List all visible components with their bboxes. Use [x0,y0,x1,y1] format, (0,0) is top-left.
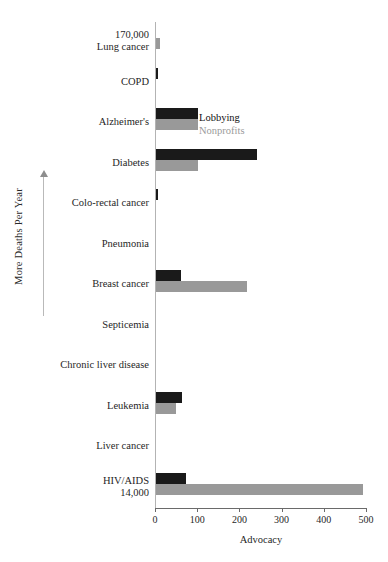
x-axis-tick [239,508,240,512]
x-axis-tick-label: 200 [219,514,259,525]
category-label: Leukemia [1,400,149,412]
x-axis-tick-label: 100 [177,514,217,525]
category-name: Pneumonia [102,238,149,249]
category-label: Alzheimer's [1,116,149,128]
category-label: Breast cancer [1,278,149,290]
category-label: HIV/AIDS14,000 [1,475,149,499]
x-axis-tick-label: 400 [304,514,344,525]
bar-nonprofits [156,119,198,130]
x-axis-tick [324,508,325,512]
bar-lobbying [156,189,158,200]
bar-nonprofits [156,484,363,495]
category-name: Septicemia [102,319,149,330]
bar-rows: 170,000Lung cancerCOPDAlzheimer'sDiabete… [0,22,388,508]
category-name: HIV/AIDS [103,475,149,486]
category-label: 170,000Lung cancer [1,29,149,53]
bar-row: Septicemia [0,306,388,343]
bar-row: Liver cancer [0,427,388,464]
bar-row: Pneumonia [0,225,388,262]
category-name: Alzheimer's [99,116,149,127]
bar-row: Leukemia [0,387,388,424]
bar-nonprofits [156,160,198,171]
x-axis-tick-label: 500 [346,514,386,525]
category-name: Leukemia [107,400,149,411]
legend-label-nonprofits: Nonprofits [199,125,245,136]
death-count-annotation: 14,000 [1,487,149,499]
x-axis-tick-label: 300 [262,514,302,525]
x-axis-tick-label: 0 [135,514,175,525]
advocacy-bar-chart: More Deaths Per Year 170,000Lung cancerC… [0,0,388,562]
legend-item-lobbying: Lobbying [199,111,245,124]
x-axis-tick [155,508,156,512]
bar-row: COPD [0,63,388,100]
bar-lobbying [156,392,182,403]
bar-lobbying [156,149,257,160]
bar-lobbying [156,270,181,281]
category-name: Diabetes [112,157,149,168]
bar-row: 170,000Lung cancer [0,22,388,59]
bar-row: Breast cancer [0,265,388,302]
category-name: COPD [121,76,149,87]
category-label: Pneumonia [1,238,149,250]
legend-item-nonprofits: Nonprofits [199,124,245,137]
category-name: Lung cancer [97,41,149,52]
category-name: Breast cancer [92,278,149,289]
bar-row: Colo-rectal cancer [0,184,388,221]
bar-lobbying [156,108,198,119]
category-label: Chronic liver disease [1,359,149,371]
category-label: Septicemia [1,319,149,331]
category-label: COPD [1,76,149,88]
bar-row: Alzheimer's [0,103,388,140]
category-label: Diabetes [1,157,149,169]
bar-row: HIV/AIDS14,000 [0,468,388,505]
bar-nonprofits [156,403,176,414]
bar-nonprofits [156,281,247,292]
x-axis-tick [366,508,367,512]
category-name: Chronic liver disease [60,359,149,370]
chart-legend: Lobbying Nonprofits [199,111,245,137]
bar-row: Chronic liver disease [0,346,388,383]
category-name: Liver cancer [96,440,149,451]
category-name: Colo-rectal cancer [72,197,149,208]
category-label: Colo-rectal cancer [1,197,149,209]
bar-lobbying [156,473,186,484]
category-label: Liver cancer [1,440,149,452]
bar-nonprofits [156,38,160,49]
legend-label-lobbying: Lobbying [199,112,240,123]
x-axis-tick [197,508,198,512]
bar-lobbying [156,68,158,79]
x-axis-ticks: 0100200300400500 [155,508,367,513]
x-axis-tick [282,508,283,512]
bar-row: Diabetes [0,144,388,181]
death-count-annotation: 170,000 [1,29,149,41]
x-axis-label: Advocacy [155,534,367,545]
